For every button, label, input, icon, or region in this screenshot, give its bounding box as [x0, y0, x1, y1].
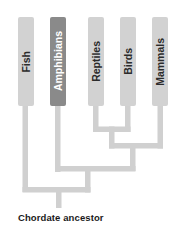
- branch-crossbar-tetrapods: [55, 166, 136, 172]
- branch-crossbar-amniotes: [109, 143, 163, 149]
- chordate-ancestor-label: Chordate ancestor: [18, 212, 104, 223]
- taxon-label-amphibians: Amphibians: [53, 31, 64, 91]
- taxon-label-mammals: Mammals: [155, 38, 166, 86]
- taxon-bar-amphibians[interactable]: Amphibians: [50, 17, 66, 106]
- branch-stem-root: [56, 187, 62, 208]
- taxon-bar-fish[interactable]: Fish: [18, 17, 34, 106]
- branch-group: [23, 103, 164, 208]
- taxon-bar-reptiles[interactable]: Reptiles: [88, 17, 104, 106]
- cladogram-figure: Fish Amphibians Reptiles Birds Mammals C…: [0, 0, 193, 238]
- taxon-label-reptiles: Reptiles: [91, 41, 102, 82]
- branch-stem-amphibians: [55, 103, 61, 172]
- taxon-label-wrap-reptiles: Reptiles: [88, 17, 104, 106]
- taxon-label-wrap-birds: Birds: [120, 17, 136, 106]
- taxon-bar-birds[interactable]: Birds: [120, 17, 136, 106]
- branch-stem-mammals: [158, 103, 164, 149]
- branch-stem-fish: [23, 103, 29, 192]
- taxon-bar-mammals[interactable]: Mammals: [152, 17, 168, 106]
- taxon-label-birds: Birds: [123, 48, 134, 75]
- taxon-label-fish: Fish: [21, 51, 32, 73]
- taxon-label-wrap-mammals: Mammals: [152, 17, 168, 106]
- taxon-label-wrap-amphibians: Amphibians: [50, 17, 66, 106]
- taxon-label-wrap-fish: Fish: [18, 17, 34, 106]
